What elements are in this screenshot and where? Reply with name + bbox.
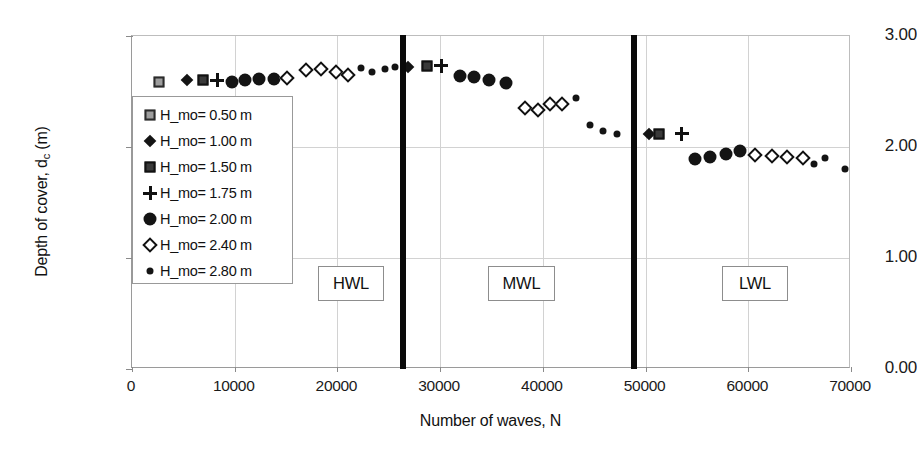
legend-label-1: H_mo= 1.00 m	[160, 133, 252, 149]
region-label-hwl: HWL	[318, 266, 384, 301]
data-point	[811, 160, 818, 167]
legend-label-4: H_mo= 2.00 m	[160, 211, 252, 227]
data-point	[499, 76, 512, 89]
data-point	[381, 66, 388, 73]
data-point	[153, 76, 164, 87]
x-tick-label-60000: 60000	[726, 378, 768, 394]
gridline-x-40000	[543, 36, 544, 367]
gridline-x-30000	[440, 36, 441, 367]
region-label-lwl: LWL	[722, 266, 788, 301]
x-axis-title: Number of waves, N	[131, 412, 850, 430]
legend-item-3[interactable]: H_mo= 1.75 m	[140, 180, 292, 206]
data-point	[653, 128, 664, 139]
data-point	[453, 69, 466, 82]
x-tick-mark-40000	[543, 367, 544, 372]
x-tick-label-30000: 30000	[418, 378, 460, 394]
x-tick-label-0: 0	[127, 378, 135, 394]
legend-label-5: H_mo= 2.40 m	[160, 237, 252, 253]
data-point	[587, 121, 594, 128]
x-tick-label-40000: 40000	[521, 378, 563, 394]
data-point	[822, 155, 829, 162]
data-point	[795, 150, 811, 166]
data-point	[279, 70, 295, 86]
legend-marker-circle-small-icon	[140, 261, 160, 281]
y-axis-title: Depth of cover, dc (m)	[33, 35, 51, 368]
region-label-mwl: MWL	[488, 266, 555, 301]
data-point	[225, 75, 238, 88]
legend-marker-diamond-open-icon	[140, 235, 160, 255]
data-point	[483, 74, 496, 87]
data-point	[719, 147, 732, 160]
legend-item-0[interactable]: H_mo= 0.50 m	[140, 102, 292, 128]
x-tick-label-50000: 50000	[624, 378, 666, 394]
chart-container: Depth of cover, dc (m) 3.00 2.00 1.00 0.…	[0, 0, 917, 460]
legend-item-4[interactable]: H_mo= 2.00 m	[140, 206, 292, 232]
legend-marker-square-dark-icon	[140, 157, 160, 177]
data-point	[298, 63, 314, 79]
data-point	[197, 75, 208, 86]
legend-item-6[interactable]: H_mo= 2.80 m	[140, 258, 292, 284]
legend-item-1[interactable]: H_mo= 1.00 m	[140, 128, 292, 154]
legend-label-6: H_mo= 2.80 m	[160, 263, 252, 279]
gridline-x-60000	[748, 36, 749, 367]
data-point	[468, 71, 481, 84]
legend-marker-diamond-filled-icon	[140, 131, 160, 151]
data-point	[181, 74, 194, 87]
data-point	[764, 148, 780, 164]
x-tick-mark-70000	[851, 367, 852, 372]
x-tick-label-20000: 20000	[316, 378, 358, 394]
data-point	[704, 150, 717, 163]
x-tick-mark-30000	[440, 367, 441, 372]
data-point	[572, 95, 579, 102]
x-tick-mark-60000	[748, 367, 749, 372]
data-point	[734, 145, 747, 158]
legend-marker-plus-icon	[140, 183, 160, 203]
region-divider-mwl-lwl	[631, 35, 637, 369]
gridline-x-50000	[646, 36, 647, 367]
x-tick-label-10000: 10000	[213, 378, 255, 394]
data-point	[267, 73, 280, 86]
legend-label-3: H_mo= 1.75 m	[160, 185, 252, 201]
gridline-x-20000	[337, 36, 338, 367]
x-tick-mark-10000	[235, 367, 236, 372]
x-tick-mark-20000	[337, 367, 338, 372]
y-tick-mark-3	[126, 36, 133, 37]
data-point	[358, 65, 365, 72]
data-point	[253, 73, 266, 86]
data-point	[391, 64, 398, 71]
data-point	[313, 62, 329, 78]
legend: H_mo= 0.50 m H_mo= 1.00 m H_mo= 1.50 m H…	[132, 96, 293, 284]
legend-item-2[interactable]: H_mo= 1.50 m	[140, 154, 292, 180]
data-point	[238, 74, 251, 87]
x-tick-mark-0	[132, 367, 133, 372]
legend-marker-circle-large-icon	[140, 209, 160, 229]
region-divider-hwl-mwl	[400, 35, 406, 369]
legend-marker-square-gray-icon	[140, 105, 160, 125]
data-point	[210, 73, 224, 87]
data-point	[555, 96, 571, 112]
legend-label-2: H_mo= 1.50 m	[160, 159, 252, 175]
data-point	[369, 68, 376, 75]
data-point	[675, 127, 689, 141]
data-point	[600, 128, 607, 135]
data-point	[421, 60, 432, 71]
x-tick-label-70000: 70000	[829, 378, 871, 394]
x-tick-mark-50000	[646, 367, 647, 372]
data-point	[841, 166, 848, 173]
data-point	[748, 147, 764, 163]
data-point	[688, 153, 701, 166]
legend-label-0: H_mo= 0.50 m	[160, 107, 252, 123]
data-point	[613, 130, 620, 137]
legend-item-5[interactable]: H_mo= 2.40 m	[140, 232, 292, 258]
data-point	[340, 67, 356, 83]
data-point	[434, 59, 448, 73]
data-point	[780, 149, 796, 165]
